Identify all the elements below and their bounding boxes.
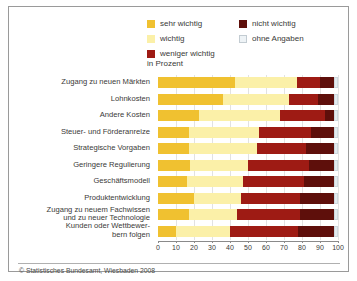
bar-segment	[304, 176, 335, 187]
axis-tick	[176, 241, 177, 243]
legend-column-1: sehr wichtig wichtig weniger wichtig	[147, 17, 215, 62]
bar-segment	[158, 94, 223, 105]
chart-legend: sehr wichtig wichtig weniger wichtig nic…	[147, 17, 352, 69]
chart-frame: sehr wichtig wichtig weniger wichtig nic…	[8, 6, 349, 272]
axis-tick-label: 0	[156, 244, 160, 251]
axis-tick	[194, 241, 195, 243]
bar-segment	[158, 127, 189, 138]
legend-swatch-icon	[239, 35, 247, 43]
bar-segment	[334, 160, 338, 171]
category-label: Zugang zu neuen Märkten	[18, 78, 150, 87]
value-axis: 0102030405060708090100	[158, 241, 338, 255]
axis-tick	[284, 241, 285, 243]
legend-item-ohne-angaben: ohne Angaben	[239, 32, 304, 45]
category-label: Geringere Regulierung	[18, 161, 150, 170]
legend-label: weniger wichtig	[160, 49, 215, 58]
bar-segment	[194, 193, 241, 204]
bar-row	[158, 77, 338, 88]
axis-tick	[338, 241, 339, 243]
legend-item-sehr-wichtig: sehr wichtig	[147, 17, 215, 30]
bar-segment	[190, 160, 248, 171]
bar-segment	[158, 209, 189, 220]
bar-row	[158, 94, 338, 105]
bar-segment	[334, 110, 338, 121]
axis-tick	[248, 241, 249, 243]
bar-segment	[158, 176, 187, 187]
bars-container	[158, 75, 338, 240]
legend-label: wichtig	[160, 34, 184, 43]
bar-segment	[334, 127, 338, 138]
legend-swatch-icon	[147, 20, 155, 28]
bar-segment	[334, 226, 338, 237]
bar-row	[158, 226, 338, 237]
axis-tick	[266, 241, 267, 243]
bar-segment	[248, 160, 309, 171]
legend-label: ohne Angaben	[252, 34, 304, 43]
bar-row	[158, 160, 338, 171]
bar-segment	[280, 110, 325, 121]
bar-segment	[297, 77, 320, 88]
bar-segment	[241, 193, 300, 204]
axis-tick	[230, 241, 231, 243]
category-label: Andere Kosten	[18, 111, 150, 120]
bar-segment	[309, 160, 334, 171]
axis-tick-label: 40	[226, 244, 234, 251]
axis-tick	[302, 241, 303, 243]
bar-segment	[158, 143, 189, 154]
legend-label: nicht wichtig	[252, 19, 296, 28]
legend-item-nicht-wichtig: nicht wichtig	[239, 17, 304, 30]
bar-segment	[318, 94, 334, 105]
axis-tick	[158, 241, 159, 243]
bar-segment	[158, 77, 235, 88]
bar-segment	[176, 226, 230, 237]
bar-segment	[243, 176, 304, 187]
category-label: Steuer- und Förderanreize	[18, 128, 150, 137]
axis-tick-label: 10	[172, 244, 180, 251]
bar-segment	[237, 209, 300, 220]
bar-segment	[257, 143, 306, 154]
bar-row	[158, 143, 338, 154]
bar-row	[158, 110, 338, 121]
bar-segment	[298, 226, 334, 237]
footer-divider	[18, 263, 340, 264]
gridline	[338, 75, 339, 240]
bar-segment	[334, 209, 338, 220]
axis-tick-label: 90	[316, 244, 324, 251]
bar-segment	[158, 226, 176, 237]
legend-column-2: nicht wichtig ohne Angaben	[239, 17, 304, 47]
bar-segment	[187, 176, 243, 187]
bar-segment	[325, 110, 334, 121]
bar-segment	[199, 110, 280, 121]
legend-swatch-icon	[147, 50, 155, 58]
axis-tick	[320, 241, 321, 243]
source-note: © Statistisches Bundesamt, Wiesbaden 200…	[19, 267, 155, 274]
bar-segment	[223, 94, 290, 105]
axis-unit-label: in Prozent	[147, 59, 183, 68]
bar-row	[158, 176, 338, 187]
category-axis-labels: Zugang zu neuen MärktenLohnkostenAndere …	[18, 75, 150, 240]
axis-tick	[212, 241, 213, 243]
bar-segment	[189, 209, 238, 220]
chart-screenshot: sehr wichtig wichtig weniger wichtig nic…	[0, 0, 357, 281]
bar-segment	[334, 176, 338, 187]
bar-segment	[259, 127, 311, 138]
bar-segment	[189, 127, 259, 138]
category-label: Produktentwicklung	[18, 194, 150, 203]
legend-item-wichtig: wichtig	[147, 32, 215, 45]
bar-segment	[334, 77, 338, 88]
bar-segment	[235, 77, 296, 88]
bar-segment	[158, 160, 190, 171]
axis-tick-label: 80	[298, 244, 306, 251]
category-label: Geschäftsmodell	[18, 177, 150, 186]
plot-area: Zugang zu neuen MärktenLohnkostenAndere …	[18, 75, 341, 253]
bar-row	[158, 127, 338, 138]
legend-label: sehr wichtig	[160, 19, 202, 28]
bar-segment	[306, 143, 335, 154]
bar-segment	[311, 127, 334, 138]
bar-segment	[158, 110, 199, 121]
axis-tick-label: 30	[208, 244, 216, 251]
axis-tick-label: 70	[280, 244, 288, 251]
category-label: Kunden oder Wettbewer- bern folgen	[18, 222, 150, 239]
bar-segment	[334, 94, 338, 105]
bar-segment	[320, 77, 334, 88]
